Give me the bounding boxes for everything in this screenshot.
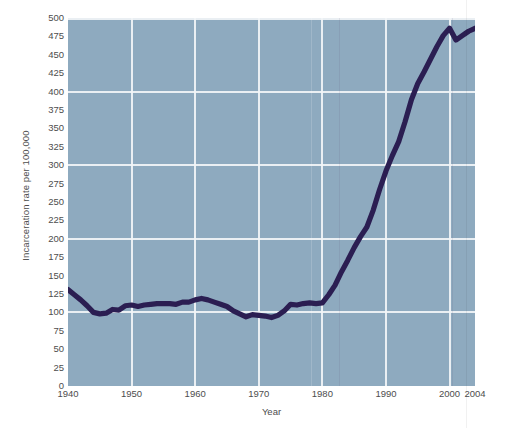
y-tick-label: 100 [48,307,64,317]
y-tick-label: 175 [48,252,64,262]
y-axis-title: Incarceration rate per 100,000 [14,0,36,390]
y-tick-label: 125 [48,289,64,299]
y-tick-label: 275 [48,179,64,189]
plot-area [68,18,475,386]
y-tick-label: 250 [48,197,64,207]
y-tick-label: 50 [53,344,64,354]
y-tick-label: 75 [53,326,64,336]
data-series-line [68,18,475,386]
x-axis-tick-labels: 19401950196019701980199020002004 [68,388,475,402]
y-tick-label: 300 [48,160,64,170]
chart-figure: Incarceration rate per 100,000 025507510… [0,0,512,428]
x-tick-label: 2004 [464,388,485,400]
y-tick-label: 500 [48,13,64,23]
x-tick-label: 1970 [248,388,269,400]
x-tick-label: 1940 [57,388,78,400]
x-tick-label: 1980 [312,388,333,400]
y-tick-label: 350 [48,123,64,133]
y-axis-title-text: Incarceration rate per 100,000 [20,130,31,260]
y-tick-label: 25 [53,363,64,373]
y-tick-label: 200 [48,234,64,244]
y-tick-label: 400 [48,87,64,97]
y-tick-label: 425 [48,68,64,78]
x-tick-label: 1950 [121,388,142,400]
y-axis-tick-labels: 0255075100125150175200225250275300325350… [36,18,64,386]
y-tick-label: 325 [48,142,64,152]
x-axis-title: Year [68,406,475,417]
x-tick-label: 1960 [185,388,206,400]
x-tick-label: 1990 [375,388,396,400]
x-axis-title-text: Year [262,406,281,417]
page-edge-artifact [466,0,467,428]
y-tick-label: 475 [48,31,64,41]
y-tick-label: 375 [48,105,64,115]
x-tick-label: 2000 [439,388,460,400]
y-tick-label: 450 [48,50,64,60]
y-tick-label: 225 [48,215,64,225]
y-tick-label: 150 [48,271,64,281]
